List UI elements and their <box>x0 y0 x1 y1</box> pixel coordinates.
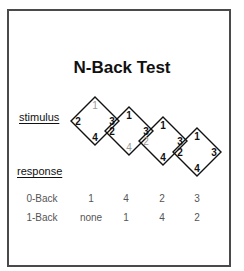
response-value: 1 <box>123 212 129 223</box>
response-value: 3 <box>194 193 200 204</box>
stimulus-diamonds: 1234123412341234 <box>0 0 244 271</box>
response-value: 2 <box>159 193 165 204</box>
row-name: 0-Back <box>26 193 57 204</box>
diamond-number-left: 2 <box>75 116 81 127</box>
diamond-number-left: 2 <box>109 126 115 137</box>
diamond-number-right: 3 <box>211 147 217 158</box>
response-value: 4 <box>159 212 165 223</box>
diamond-number-top: 1 <box>160 120 166 131</box>
diamond-number-top: 1 <box>126 110 132 121</box>
row-name: 1-Back <box>26 212 57 223</box>
diamond-number-top: 1 <box>92 100 98 111</box>
diamond-number-bottom: 4 <box>92 132 98 143</box>
diamond-number-bottom: 4 <box>194 163 200 174</box>
response-value: none <box>80 212 102 223</box>
diamond-number-bottom: 4 <box>160 152 166 163</box>
diamond-number-left: 2 <box>177 147 183 158</box>
response-value: 1 <box>88 193 94 204</box>
response-value: 2 <box>194 212 200 223</box>
diamond-number-top: 1 <box>194 131 200 142</box>
response-value: 4 <box>123 193 129 204</box>
diamond-number-left: 2 <box>143 136 149 147</box>
diamond-number-bottom: 4 <box>126 142 132 153</box>
